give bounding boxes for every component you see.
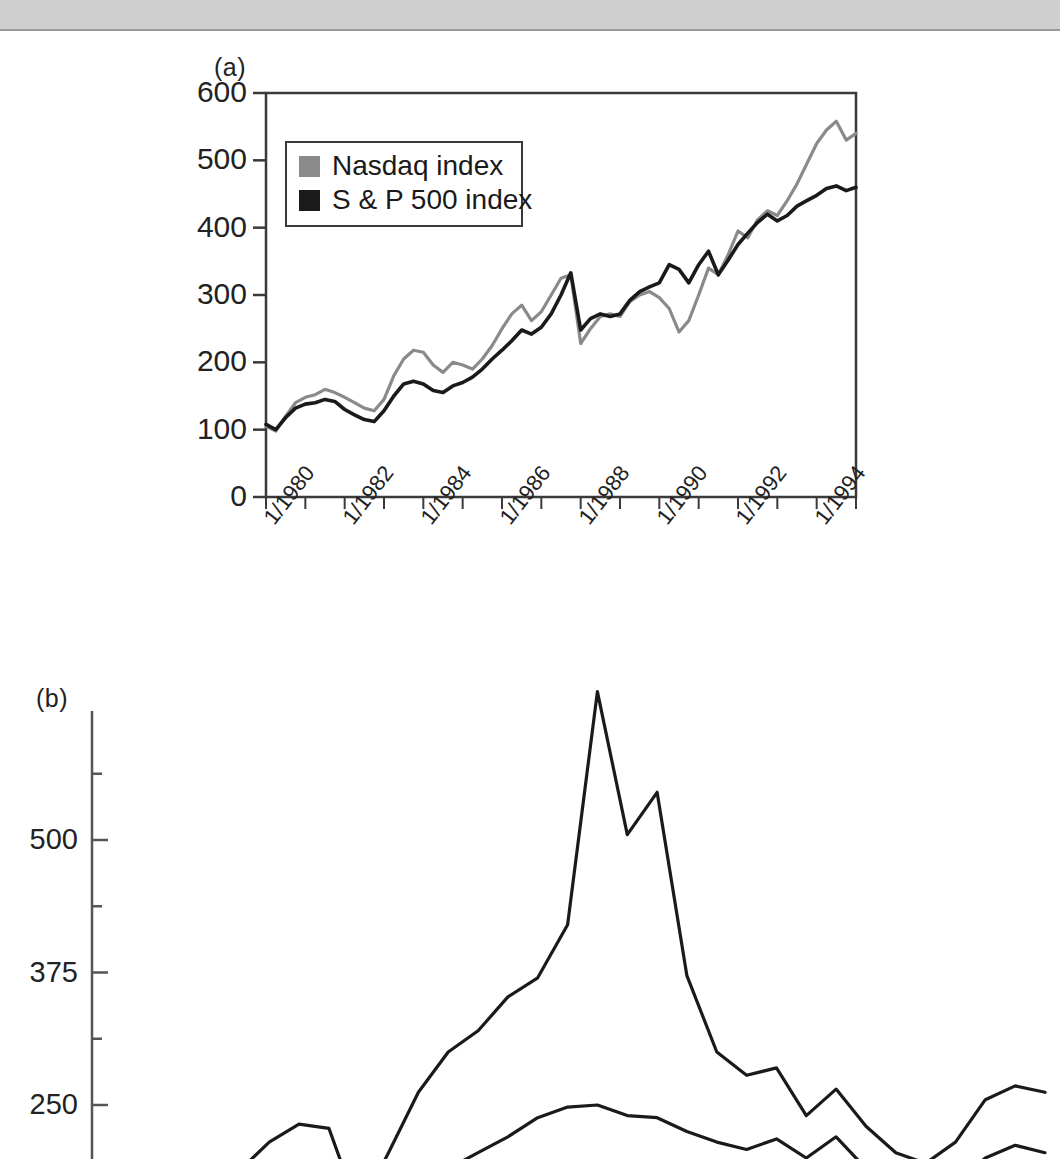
legend-label-nasdaq: Nasdaq index (332, 152, 503, 180)
chart-a-y-tick-label: 400 (197, 212, 247, 242)
legend-item: S & P 500 index (299, 183, 507, 217)
chart-a-y-tick-label: 600 (197, 77, 247, 107)
legend-item: Nasdaq index (299, 149, 507, 183)
chart-a-legend: Nasdaq index S & P 500 index (285, 141, 523, 227)
chart-b-y-ticks (92, 774, 108, 1105)
chart-b-y-tick-label: 375 (30, 958, 78, 987)
chart-panel-a: (a) 0100200300400500600 1/19801/19821/19… (0, 29, 1060, 629)
chart-panel-b: (b) 500375250 OTC index S & P 500 index (0, 629, 1060, 1159)
chart-b-plot (0, 629, 1060, 1159)
chart-a-y-tick-label: 100 (197, 414, 247, 444)
chart-b-y-tick-label: 500 (30, 825, 78, 854)
legend-label-sp500: S & P 500 index (332, 186, 532, 214)
chart-a-y-tick-label: 0 (230, 481, 247, 511)
chart-a-y-tick-label: 300 (197, 279, 247, 309)
legend-swatch-nasdaq (299, 156, 320, 177)
page-header-band (0, 0, 1060, 31)
chart-a-y-ticks (253, 93, 266, 497)
chart-a-y-tick-label: 200 (197, 346, 247, 376)
legend-swatch-sp500 (299, 190, 320, 211)
chart-b-y-tick-label: 250 (30, 1090, 78, 1119)
chart-a-y-tick-label: 500 (197, 144, 247, 174)
chart-a-plot (0, 29, 1060, 629)
chart-b-series (120, 692, 1045, 1159)
